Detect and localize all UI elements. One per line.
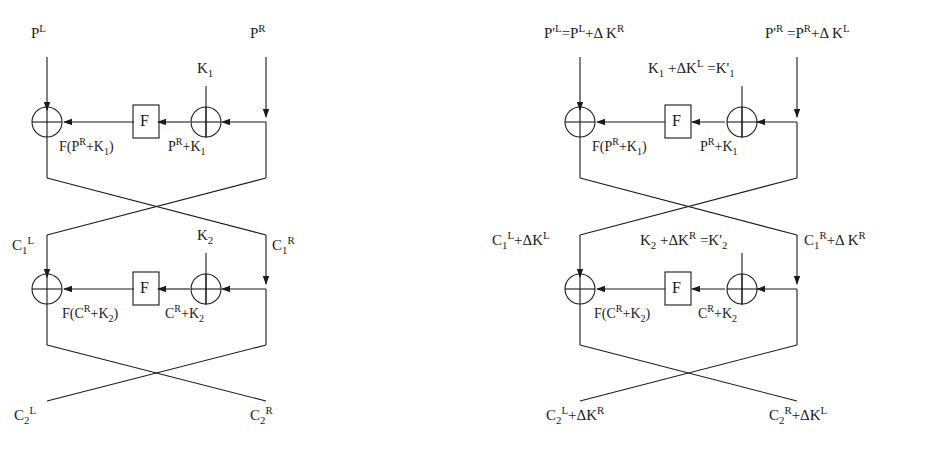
- right-round2-f-label: F: [672, 279, 681, 297]
- left-round2-f-label: F: [140, 279, 149, 297]
- left-output-right-label: C2R: [250, 408, 273, 423]
- left-round2-xor-output-label: CR+K2: [165, 307, 204, 321]
- right-mid-left-label: C1L+ΔKL: [492, 233, 550, 248]
- right-round2-f-output-label: F(CR+K2): [594, 307, 650, 321]
- figure-canvas: PL PR K1 F F(PR+K1) PR+K1 C1L C1R K2 F F…: [0, 0, 926, 458]
- left-round1-f-output-label: F(PR+K1): [59, 140, 114, 154]
- left-round1-xor-output-label: PR+K1: [168, 140, 206, 154]
- right-mid-right-label: C1R+Δ KR: [804, 233, 866, 248]
- right-round1-f-output-label: F(PR+K1): [592, 140, 647, 154]
- right-input-right-label: P'R =PR+Δ KL: [765, 26, 850, 41]
- left-round1-f-label: F: [140, 112, 149, 130]
- left-mid-left-label: C1L: [12, 238, 34, 253]
- left-round2-key-label: K2: [197, 228, 213, 243]
- left-round2-f-output-label: F(CR+K2): [62, 307, 118, 321]
- left-input-right-label: PR: [250, 26, 266, 41]
- right-round1-xor-output-label: PR+K1: [700, 140, 738, 154]
- right-output-right-label: C2R+ΔKL: [769, 408, 827, 423]
- left-mid-right-label: C1R: [272, 238, 295, 253]
- right-round2-key-label: K2 +ΔKR =K'2: [640, 233, 727, 248]
- right-round1-f-label: F: [672, 112, 681, 130]
- right-diagram-graphics: [565, 57, 797, 401]
- left-diagram-graphics: [32, 57, 266, 401]
- right-round1-key-label: K1 +ΔKL =K'1: [648, 61, 735, 76]
- right-round2-xor-output-label: CR+K2: [698, 307, 737, 321]
- right-output-left-label: C2L+ΔKR: [546, 408, 604, 423]
- left-output-left-label: C2L: [14, 408, 36, 423]
- right-input-left-label: P'L=PL+Δ KR: [544, 26, 624, 41]
- diagram-svg: [0, 0, 926, 458]
- left-round1-key-label: K1: [197, 61, 213, 76]
- left-input-left-label: PL: [31, 26, 46, 41]
